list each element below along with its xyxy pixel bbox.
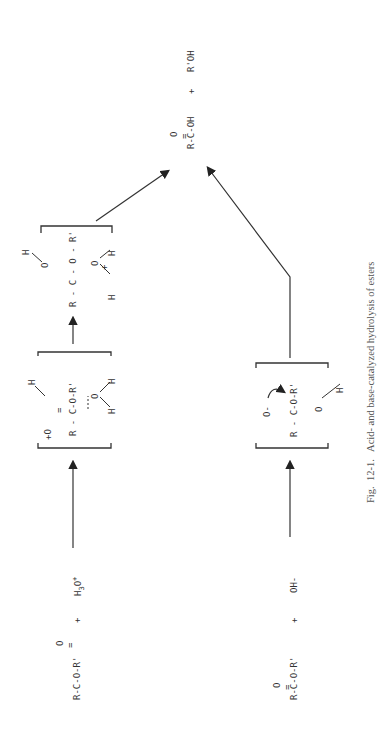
- acid-ester-carbonyl-o: O: [56, 641, 65, 646]
- product-acid-chain: R-C-OH: [187, 116, 196, 149]
- bracket-intermediate-1-top: [38, 352, 111, 356]
- int1-h-top: H: [28, 380, 37, 385]
- arrow-acid-to-products: [96, 171, 168, 221]
- base-int-chain: R - C-O-R': [290, 383, 299, 437]
- base-int-o-minus: O-: [263, 406, 272, 417]
- int2-chain: R - C - O - R': [69, 231, 78, 307]
- int2-plus: +: [100, 265, 109, 270]
- base-ester-carbonyl-o: O: [273, 683, 282, 688]
- base-int-oh-o: O: [315, 407, 324, 412]
- bracket-intermediate-1-bottom: [38, 443, 111, 448]
- int1-h1: H: [108, 379, 117, 384]
- bond-oh-left: [32, 253, 42, 262]
- figure-caption: Fig. 12-1. Acid- and base-catalyzed hydr…: [366, 262, 377, 503]
- bond-o-h-2: [100, 397, 110, 407]
- base-ester-chain: R-C-O-R': [290, 657, 299, 700]
- acid-catalyst-h3o: H3O+: [72, 577, 86, 596]
- curved-electron-arrow: [268, 389, 284, 398]
- int2-h-left: H: [22, 250, 31, 255]
- int2-h-right-2: H: [108, 295, 117, 300]
- bracket-base-intermediate-top: [256, 363, 328, 368]
- int1-water-o: O: [91, 394, 100, 399]
- base-catalyst-oh: OH-: [290, 577, 299, 593]
- int1-chain: R - C-O-R': [69, 382, 78, 436]
- product-acid-carbonyl-o: O: [170, 132, 179, 137]
- int1-o-plus: +O: [44, 429, 53, 440]
- arrow-base-to-products: [208, 168, 290, 358]
- acid-plus: +: [73, 618, 82, 623]
- int2-h-right-1: H: [108, 251, 117, 256]
- base-plus: +: [290, 618, 299, 623]
- acid-ester-double-bond: =: [66, 643, 75, 648]
- product-plus: +: [187, 89, 196, 94]
- bond-o-h-top: [35, 386, 45, 396]
- int1-double-bond: =: [55, 408, 64, 413]
- bracket-base-intermediate-bottom: [256, 443, 328, 448]
- product-alcohol: R'OH: [187, 50, 196, 72]
- acid-ester-chain: R-C-O-R': [73, 657, 82, 700]
- int1-h2: H: [108, 409, 117, 414]
- int2-oh-left-o: O: [41, 263, 50, 268]
- diagram-lines: [0, 0, 389, 731]
- base-int-oh-h: H: [336, 388, 345, 393]
